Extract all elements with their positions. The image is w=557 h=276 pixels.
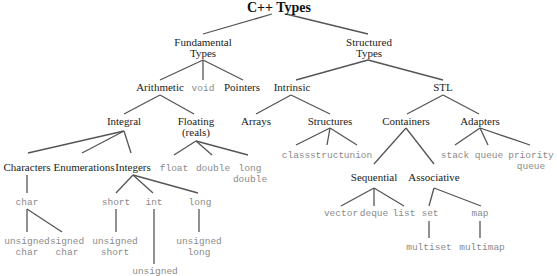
node-label: long xyxy=(233,163,267,174)
node-label: char xyxy=(50,247,84,258)
node-long-double: long double xyxy=(233,163,267,185)
node-union: union xyxy=(344,150,373,161)
tree-edges xyxy=(0,0,557,276)
node-label: Types xyxy=(346,48,392,59)
node-pointers: Pointers xyxy=(224,82,260,93)
node-class: class xyxy=(282,150,311,161)
node-signed-char: signed char xyxy=(50,236,84,258)
node-label: signed xyxy=(50,236,84,247)
node-long: long xyxy=(189,197,212,208)
cpp-types-diagram: C++ Types Fundamental Types Structured T… xyxy=(0,0,557,276)
node-stl: STL xyxy=(433,82,453,93)
node-intrinsic: Intrinsic xyxy=(274,82,311,93)
node-deque: deque xyxy=(360,208,389,219)
node-multiset: multiset xyxy=(406,242,452,253)
node-unsigned-char: unsigned char xyxy=(4,236,50,258)
node-short: short xyxy=(102,197,131,208)
node-priority-queue: priority queue xyxy=(508,150,554,172)
node-struct: struct xyxy=(310,150,344,161)
node-label: long xyxy=(176,247,222,258)
node-label: priority xyxy=(508,150,554,161)
node-enumerations: Enumerations xyxy=(53,162,114,173)
node-stack: stack xyxy=(441,150,470,161)
node-label: unsigned xyxy=(176,236,222,247)
node-unsigned-int: unsigned xyxy=(132,266,178,276)
node-queue: queue xyxy=(475,150,504,161)
node-fundamental-types: Fundamental Types xyxy=(174,37,231,59)
root-node-cpp-types: C++ Types xyxy=(247,0,311,16)
node-structures: Structures xyxy=(308,116,353,127)
node-vector: vector xyxy=(324,208,358,219)
node-associative: Associative xyxy=(408,172,459,183)
node-label: Types xyxy=(174,48,231,59)
node-label: unsigned xyxy=(4,236,50,247)
node-arithmetic: Arithmetic xyxy=(136,82,184,93)
node-set: set xyxy=(421,208,438,219)
node-characters: Characters xyxy=(3,162,50,173)
node-char: char xyxy=(16,197,39,208)
node-floating-reals: Floating (reals) xyxy=(178,116,215,138)
node-label: char xyxy=(4,247,50,258)
node-multimap: multimap xyxy=(459,242,505,253)
node-unsigned-long: unsigned long xyxy=(176,236,222,258)
node-double: double xyxy=(196,163,230,174)
node-label: unsigned xyxy=(92,236,138,247)
node-arrays: Arrays xyxy=(241,116,271,127)
node-float: float xyxy=(160,163,189,174)
node-map: map xyxy=(471,208,488,219)
node-adapters: Adapters xyxy=(460,116,500,127)
node-list: list xyxy=(393,208,416,219)
node-label: queue xyxy=(508,161,554,172)
node-label: double xyxy=(233,174,267,185)
node-unsigned-short: unsigned short xyxy=(92,236,138,258)
node-structured-types: Structured Types xyxy=(346,37,392,59)
node-int: int xyxy=(145,197,162,208)
node-void: void xyxy=(192,83,215,94)
node-integers: Integers xyxy=(115,162,150,173)
node-label: short xyxy=(92,247,138,258)
node-label: (reals) xyxy=(178,127,215,138)
node-containers: Containers xyxy=(382,116,430,127)
node-sequential: Sequential xyxy=(351,172,397,183)
node-integral: Integral xyxy=(107,116,141,127)
